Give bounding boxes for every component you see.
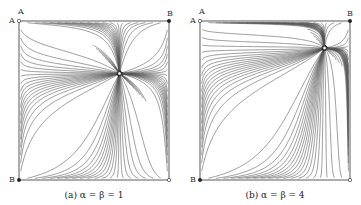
panel-a: A A B B (a) α = β = 1 [0,0,180,205]
phase-portrait-b [181,0,361,205]
streamline [202,29,325,48]
streamline [324,48,342,178]
corner-label-b-top-right: B [347,10,353,18]
corner-label-b-top-right: B [167,10,173,18]
streamline [324,48,348,139]
stable-point-marker [17,178,20,181]
unstable-point-marker [348,178,351,181]
streamline [202,45,324,48]
corner-label-a-left: A [9,17,15,25]
plot-frame [200,21,350,180]
streamline [202,48,325,131]
stable-point-marker [198,178,201,181]
saddle-point-marker [323,46,326,49]
streamline [35,73,120,178]
streamline [119,30,167,74]
corner-label-b-bottom-left: B [190,176,196,184]
unstable-point-marker [17,19,20,22]
unstable-point-marker [198,19,201,22]
streamline [21,73,120,163]
corner-label-a-left: A [190,17,196,25]
streamline [324,30,348,48]
corner-label-a-upper: A [18,8,24,16]
plot-frame [19,21,169,180]
stable-point-marker [348,19,351,22]
streamline [324,48,327,178]
panel-b: A A B B (b) α = β = 4 [181,0,361,205]
saddle-point-marker [118,72,121,75]
phase-portrait-a [0,0,180,205]
streamline [72,73,119,178]
streamline [324,23,341,48]
streamline [119,46,167,74]
streamline [50,73,120,179]
streamline [268,23,324,49]
streamline [324,23,334,48]
streamline [238,23,324,49]
streamline [119,23,153,74]
streamline [119,73,145,178]
streamline [119,38,167,74]
streamline [208,47,325,178]
caption-b: (b) α = β = 4 [185,190,361,200]
streamline [324,38,348,48]
streamline [119,23,145,74]
streamline [21,46,120,74]
corner-label-a-upper: A [199,8,205,16]
streamline [21,73,121,147]
caption-a: (a) α = β = 1 [4,190,184,200]
corner-label-b-bottom-left: B [9,176,15,184]
streamline [202,48,325,172]
unstable-point-marker [167,178,170,181]
streamline [21,73,120,123]
stable-point-marker [167,19,170,22]
